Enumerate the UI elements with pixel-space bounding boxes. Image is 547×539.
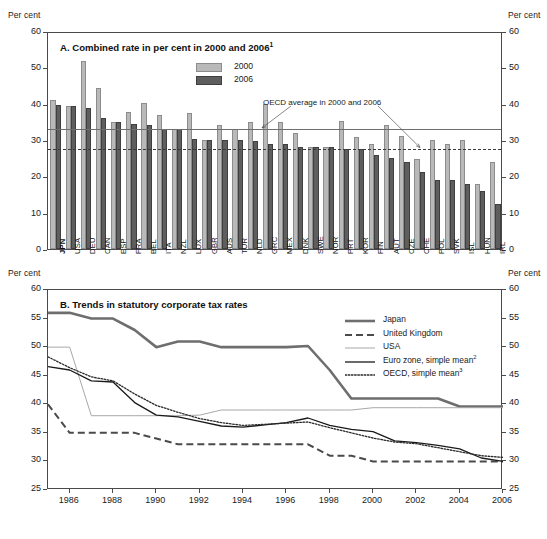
y-tick-45: 45 (509, 369, 519, 379)
bar-nzl-2006 (177, 129, 182, 249)
category-label-cze: CZE (407, 238, 416, 254)
x-tick-1994: 1994 (228, 495, 256, 505)
bar-gbr-2006 (207, 140, 212, 249)
y-tick-25: 25 (21, 483, 41, 493)
category-label-fra: FRA (134, 238, 143, 254)
legend-b-label-oecd-simple-mean: OECD, simple mean3 (383, 368, 463, 378)
y-tick-mark-40 (502, 403, 506, 404)
x-tick-mark-1994 (242, 489, 243, 493)
y-tick-60: 60 (21, 283, 41, 293)
category-label-bel: BEL (149, 239, 158, 254)
y-tick-mark-55 (43, 318, 47, 319)
y-tick-60: 60 (509, 26, 519, 36)
y-tick-mark-30 (43, 141, 47, 142)
bar-ita-2006 (162, 129, 167, 249)
x-tick-1988: 1988 (98, 495, 126, 505)
panel-a-plot-area: A. Combined rate in per cent in 2000 and… (47, 32, 502, 250)
bar-fra-2006 (131, 124, 136, 249)
y-tick-mark-45 (502, 375, 506, 376)
legend-a-swatch-2006 (196, 76, 222, 85)
y-tick-50: 50 (509, 340, 519, 350)
legend-b-footnote-oecd-simple-mean: 3 (459, 367, 462, 373)
y-tick-60: 60 (21, 26, 41, 36)
y-tick-35: 35 (21, 426, 41, 436)
y-tick-mark-10 (502, 214, 506, 215)
category-label-can: CAN (103, 237, 112, 254)
category-label-gbr: GBR (210, 237, 219, 254)
panel-b-series-layer (48, 290, 503, 490)
category-label-tur: TUR (240, 238, 249, 254)
y-tick-0: 0 (21, 244, 41, 254)
bar-nld-2006 (253, 141, 258, 249)
category-label-hun: HUN (483, 237, 492, 254)
x-tick-mark-2006 (502, 489, 503, 493)
y-tick-mark-30 (502, 141, 506, 142)
y-tick-10: 10 (509, 208, 519, 218)
category-label-ita: ITA (164, 242, 173, 254)
y-tick-40: 40 (509, 99, 519, 109)
oecd-average-line-2000 (48, 129, 501, 130)
x-tick-mark-1986 (69, 489, 70, 493)
y-tick-mark-50 (43, 68, 47, 69)
bar-isl-2006 (465, 184, 470, 249)
bar-kor-2006 (359, 149, 364, 249)
bar-prt-2006 (344, 149, 349, 249)
legend-b-mark-euro-zone-simple-mean (345, 360, 375, 364)
x-tick-1998: 1998 (315, 495, 343, 505)
y-tick-30: 30 (509, 135, 519, 145)
panel-b-right-unit-label: Per cent (508, 268, 540, 278)
y-tick-20: 20 (509, 171, 519, 181)
category-label-usa: USA (73, 238, 82, 254)
x-tick-mark-2000 (372, 489, 373, 493)
legend-b-footnote-euro-zone-simple-mean: 2 (473, 354, 476, 360)
y-tick-50: 50 (21, 62, 41, 72)
x-tick-mark-1990 (155, 489, 156, 493)
bar-aut-2006 (389, 158, 394, 249)
panel-a-title-footnote: 1 (270, 41, 274, 48)
y-tick-mark-35 (502, 432, 506, 433)
y-tick-mark-60 (43, 32, 47, 33)
category-label-nzl: NZL (179, 239, 188, 254)
category-label-prt: PRT (346, 238, 355, 254)
bar-jpn-2006 (56, 105, 61, 249)
y-tick-mark-50 (502, 68, 506, 69)
category-label-kor: KOR (361, 237, 370, 254)
bar-swe-2006 (313, 147, 318, 249)
panel-a-left-unit-label: Per cent (8, 10, 40, 20)
category-label-dnk: DNK (301, 237, 310, 254)
y-tick-35: 35 (509, 426, 519, 436)
y-tick-mark-40 (43, 105, 47, 106)
category-label-jpn: JPN (58, 239, 67, 254)
legend-b-label-euro-zone-simple-mean: Euro zone, simple mean2 (383, 355, 476, 365)
y-tick-40: 40 (21, 397, 41, 407)
x-tick-2006: 2006 (488, 495, 516, 505)
x-tick-1986: 1986 (55, 495, 83, 505)
bar-esp-2006 (116, 122, 121, 249)
y-tick-mark-55 (502, 318, 506, 319)
y-tick-45: 45 (21, 369, 41, 379)
x-tick-mark-2004 (459, 489, 460, 493)
legend-b-label-united-kingdom: United Kingdom (383, 328, 443, 338)
category-label-svk: SVK (452, 238, 461, 254)
panel-a-title: A. Combined rate in per cent in 2000 and… (60, 42, 273, 53)
y-tick-mark-20 (43, 177, 47, 178)
category-label-deu: DEU (88, 237, 97, 254)
category-label-mex: MEX (285, 237, 294, 254)
bar-can-2006 (101, 118, 106, 249)
x-tick-mark-1996 (285, 489, 286, 493)
category-label-lux: LUX (194, 239, 203, 254)
y-tick-mark-50 (502, 346, 506, 347)
x-tick-mark-2002 (415, 489, 416, 493)
x-tick-2002: 2002 (401, 495, 429, 505)
bar-nor-2006 (329, 147, 334, 249)
category-label-isl: ISL (467, 242, 476, 254)
x-tick-2004: 2004 (445, 495, 473, 505)
legend-a-swatch-2000 (196, 63, 222, 72)
y-tick-mark-10 (43, 214, 47, 215)
bar-aus-2006 (222, 140, 227, 249)
y-tick-mark-60 (43, 289, 47, 290)
x-tick-mark-1998 (329, 489, 330, 493)
x-tick-mark-1992 (199, 489, 200, 493)
y-tick-20: 20 (21, 171, 41, 181)
legend-a-label-2000: 2000 (234, 61, 253, 71)
